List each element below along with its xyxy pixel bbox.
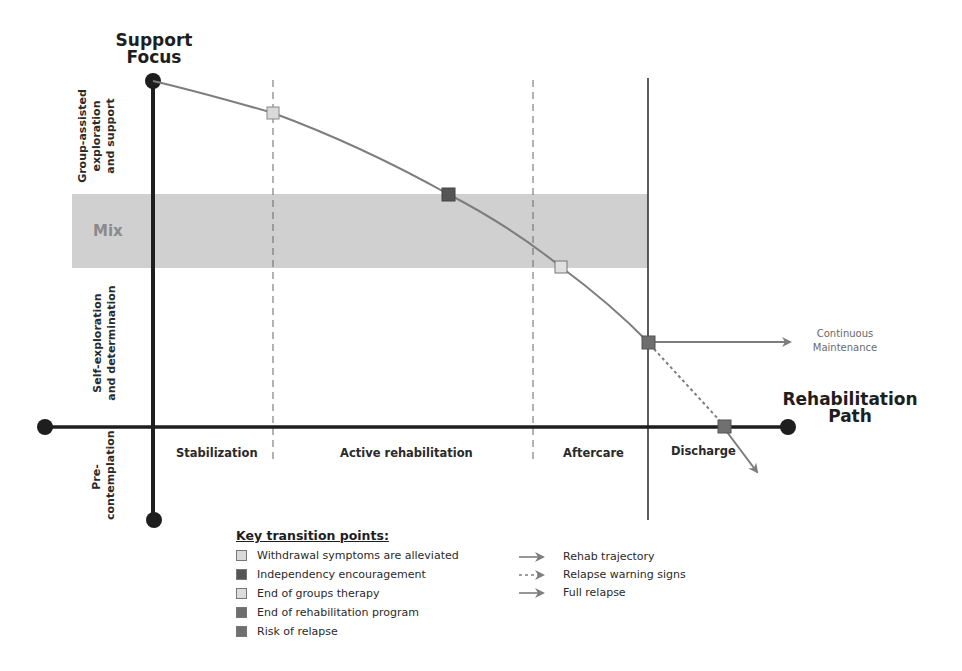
legend-item-end-groups: End of groups therapy (236, 587, 379, 600)
legend-item-rehab-trajectory: Rehab trajectory (563, 550, 655, 563)
mix-band (72, 194, 648, 268)
legend-label-rehab-trajectory: Rehab trajectory (563, 550, 655, 563)
legend-item-full-relapse: Full relapse (563, 586, 626, 599)
y-axis-bottom-dot (146, 512, 162, 528)
phase-active-rehabilitation: Active rehabilitation (340, 446, 473, 460)
marker-withdrawal-alleviated (267, 107, 279, 119)
x-axis-left-dot (37, 419, 53, 435)
legend-item-relapse-warning: Relapse warning signs (563, 568, 686, 581)
y-axis-title: Support Focus (98, 32, 210, 66)
legend-item-independency: Independency encouragement (236, 568, 426, 581)
legend-label-full-relapse: Full relapse (563, 586, 626, 599)
zone-label-self-exploration: Self-exploration and determination (91, 281, 125, 405)
zone-label-mix: Mix (93, 222, 123, 240)
legend-label-risk-relapse: Risk of relapse (257, 625, 338, 638)
zone-group-line1: Group-assisted (76, 86, 90, 186)
zone-label-pre-contemplation: Pre- contemplation (90, 434, 124, 520)
legend-label-relapse-warning: Relapse warning signs (563, 568, 686, 581)
cm-line2: Maintenance (800, 341, 890, 355)
phase-aftercare: Aftercare (563, 446, 624, 460)
legend-title: Key transition points: (236, 528, 389, 543)
x-axis-title: Rehabilitation Path (760, 391, 940, 425)
x-axis-title-line2: Path (760, 408, 940, 425)
marker-end-groups-therapy (555, 261, 567, 273)
marker-independency-encouragement (442, 188, 455, 201)
legend-label-withdrawal: Withdrawal symptoms are alleviated (257, 549, 459, 562)
phase-stabilization: Stabilization (176, 446, 258, 460)
legend-item-withdrawal: Withdrawal symptoms are alleviated (236, 549, 459, 562)
zone-pre-line1: Pre- (90, 434, 104, 520)
zone-label-group-assisted: Group-assisted exploration and support (76, 86, 124, 186)
relapse-warning-line (654, 349, 721, 422)
marker-end-rehab-program (642, 336, 655, 349)
legend-label-independency: Independency encouragement (257, 568, 426, 581)
legend-swatch-risk-relapse (236, 626, 247, 637)
y-axis-title-line2: Focus (98, 49, 210, 66)
zone-pre-line2: contemplation (104, 434, 118, 520)
legend-label-end-rehab: End of rehabilitation program (257, 606, 419, 619)
marker-risk-of-relapse (718, 420, 731, 433)
legend-swatch-independency (236, 569, 247, 580)
phase-discharge: Discharge (671, 444, 736, 458)
legend-swatch-end-rehab (236, 607, 247, 618)
legend-swatch-withdrawal (236, 550, 247, 561)
legend-label-end-groups: End of groups therapy (257, 587, 379, 600)
cm-line1: Continuous (800, 327, 890, 341)
zone-group-line3: and support (104, 86, 118, 186)
zone-group-line2: exploration (90, 86, 104, 186)
continuous-maintenance-label: Continuous Maintenance (800, 327, 890, 354)
legend-swatch-end-groups (236, 588, 247, 599)
zone-self-line2: and determination (105, 281, 119, 405)
zone-self-line1: Self-exploration (91, 281, 105, 405)
legend-item-end-rehab: End of rehabilitation program (236, 606, 419, 619)
legend-item-risk-relapse: Risk of relapse (236, 625, 338, 638)
